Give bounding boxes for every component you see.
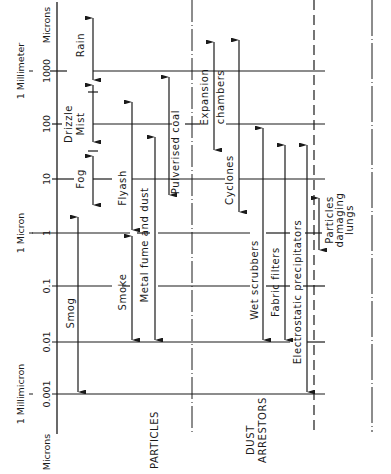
label-drizzle: Drizzle [63, 105, 74, 143]
tick-1000: 1000 [41, 59, 52, 83]
particle-size-diagram: 1000 100 10 1 0.1 0.01 0.001 Microns Mic… [0, 0, 391, 474]
label-chambers: chambers [215, 70, 226, 124]
long-label-millimeter: 1 Millimeter [15, 43, 26, 99]
long-label-millimicron: 1 Millimicron [15, 364, 26, 424]
label-expansion: Expansion [199, 69, 210, 126]
arrestor-ranges [214, 40, 319, 392]
section-particles: PARTICLES [149, 411, 160, 469]
units-top: Microns [41, 7, 52, 44]
tick-1: 1 [41, 230, 52, 236]
label-smog: Smog [65, 298, 76, 329]
tick-0-1: 0.1 [41, 278, 52, 293]
tick-0-01: 0.01 [41, 331, 52, 352]
label-smoke: Smoke [117, 274, 128, 311]
label-mist: Mist [75, 113, 86, 136]
tick-0-001: 0.001 [41, 380, 52, 407]
label-rain: Rain [75, 33, 86, 57]
label-flyash: Flyash [117, 170, 128, 206]
axis-tick-labels: 1000 100 10 1 0.1 0.01 0.001 Microns Mic… [15, 7, 52, 471]
label-fabric-filters: Fabric filters [270, 247, 281, 317]
long-label-micron: 1 Micron [15, 213, 26, 254]
label-wet-scrubbers: Wet scrubbers [249, 240, 260, 320]
section-dust: DUST [245, 425, 256, 455]
tick-10: 10 [41, 173, 52, 185]
units-bottom: Microns [41, 434, 52, 471]
label-pulverised-coal: Pulverised coal [170, 110, 181, 194]
tick-100: 100 [41, 115, 52, 133]
section-arrestors: ARRESTORS [257, 397, 268, 463]
label-fog: Fog [75, 169, 86, 189]
label-metal-fume: Metal fume and dust [139, 188, 150, 303]
label-lungs-3: lungs [344, 205, 355, 235]
label-electrostatic: Electrostatic precipitators [292, 220, 303, 365]
label-cyclones: Cyclones [224, 155, 235, 205]
